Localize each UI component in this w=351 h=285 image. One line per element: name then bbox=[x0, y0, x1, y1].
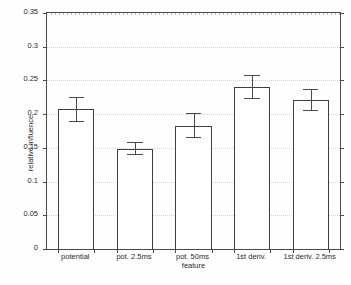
minor-tick bbox=[327, 13, 328, 15]
error-bar-cap-upper bbox=[303, 89, 318, 90]
y-tick-label: 0.15 bbox=[23, 143, 38, 151]
minor-tick bbox=[215, 13, 216, 15]
gridline bbox=[47, 80, 340, 81]
bar bbox=[117, 149, 153, 249]
minor-tick bbox=[51, 13, 52, 15]
y-tick-mark bbox=[340, 47, 344, 48]
minor-tick bbox=[287, 13, 288, 15]
error-bar-cap-upper bbox=[127, 142, 142, 143]
minor-tick bbox=[339, 13, 340, 15]
x-tick-label: pot. 50ms bbox=[176, 252, 209, 261]
minor-tick bbox=[295, 13, 296, 15]
minor-tick bbox=[195, 13, 196, 15]
minor-tick bbox=[271, 13, 272, 15]
minor-tick bbox=[91, 13, 92, 15]
bar bbox=[175, 126, 211, 249]
minor-tick bbox=[75, 13, 76, 15]
error-bar bbox=[194, 113, 195, 137]
minor-tick bbox=[115, 13, 116, 15]
minor-tick bbox=[251, 13, 252, 15]
y-tick-label: 0.2 bbox=[28, 109, 38, 117]
x-tick-label: 1st deriv. bbox=[236, 252, 266, 261]
minor-tick bbox=[211, 13, 212, 15]
minor-tick bbox=[131, 13, 132, 15]
y-tick-mark bbox=[43, 249, 47, 250]
minor-tick bbox=[123, 13, 124, 15]
minor-tick bbox=[307, 13, 308, 15]
minor-tick bbox=[219, 13, 220, 15]
error-bar bbox=[252, 75, 253, 98]
y-tick-mark bbox=[43, 13, 47, 14]
minor-tick bbox=[319, 13, 320, 15]
y-tick-mark bbox=[43, 114, 47, 115]
minor-tick bbox=[111, 13, 112, 15]
minor-tick bbox=[235, 13, 236, 15]
minor-tick bbox=[311, 13, 312, 15]
minor-tick bbox=[331, 13, 332, 15]
x-tick-label: 1st deriv. 2.5ms bbox=[283, 252, 335, 261]
minor-tick bbox=[303, 13, 304, 15]
bar bbox=[293, 100, 329, 249]
y-tick-mark bbox=[43, 80, 47, 81]
minor-tick bbox=[63, 13, 64, 15]
error-bar-cap-lower bbox=[127, 154, 142, 155]
minor-tick bbox=[171, 13, 172, 15]
minor-tick bbox=[159, 13, 160, 15]
minor-tick bbox=[87, 13, 88, 15]
minor-tick bbox=[103, 13, 104, 15]
minor-tick bbox=[323, 13, 324, 15]
y-axis-tick-labels: 00.050.10.150.20.250.30.35 bbox=[0, 12, 43, 250]
minor-tick bbox=[291, 13, 292, 15]
minor-tick bbox=[119, 13, 120, 15]
error-bar-cap-lower bbox=[244, 98, 259, 99]
y-tick-mark bbox=[43, 182, 47, 183]
minor-tick bbox=[139, 13, 140, 15]
minor-tick bbox=[239, 13, 240, 15]
minor-tick bbox=[191, 13, 192, 15]
minor-tick bbox=[207, 13, 208, 15]
y-tick-mark bbox=[340, 13, 344, 14]
minor-tick bbox=[315, 13, 316, 15]
minor-tick bbox=[267, 13, 268, 15]
minor-tick bbox=[147, 13, 148, 15]
error-bar-cap-lower bbox=[69, 121, 84, 122]
minor-tick bbox=[151, 13, 152, 15]
minor-tick bbox=[83, 13, 84, 15]
error-bar bbox=[76, 97, 77, 121]
minor-tick bbox=[183, 13, 184, 15]
minor-tick bbox=[55, 13, 56, 15]
y-tick-mark bbox=[340, 215, 344, 216]
y-tick-mark bbox=[340, 182, 344, 183]
minor-tick bbox=[223, 13, 224, 15]
error-bar bbox=[135, 142, 136, 154]
minor-tick bbox=[199, 13, 200, 15]
figure: relative influence 00.050.10.150.20.250.… bbox=[0, 0, 351, 285]
minor-tick bbox=[99, 13, 100, 15]
minor-tick bbox=[231, 13, 232, 15]
plot-area bbox=[46, 12, 341, 250]
error-bar-cap-lower bbox=[303, 110, 318, 111]
minor-tick bbox=[283, 13, 284, 15]
y-tick-label: 0 bbox=[34, 244, 38, 252]
y-tick-mark bbox=[43, 47, 47, 48]
minor-tick bbox=[95, 13, 96, 15]
minor-tick bbox=[275, 13, 276, 15]
minor-tick bbox=[203, 13, 204, 15]
minor-tick bbox=[299, 13, 300, 15]
gridline bbox=[47, 47, 340, 48]
minor-tick bbox=[335, 13, 336, 15]
minor-tick bbox=[59, 13, 60, 15]
y-tick-label: 0.35 bbox=[23, 8, 38, 16]
y-tick-mark bbox=[340, 148, 344, 149]
y-tick-mark bbox=[340, 249, 344, 250]
minor-tick bbox=[135, 13, 136, 15]
error-bar bbox=[311, 89, 312, 110]
minor-tick bbox=[127, 13, 128, 15]
y-tick-label: 0.3 bbox=[28, 42, 38, 50]
minor-tick bbox=[79, 13, 80, 15]
minor-tick bbox=[279, 13, 280, 15]
y-tick-mark bbox=[340, 114, 344, 115]
error-bar-cap-lower bbox=[186, 137, 201, 138]
minor-tick bbox=[67, 13, 68, 15]
minor-tick bbox=[71, 13, 72, 15]
